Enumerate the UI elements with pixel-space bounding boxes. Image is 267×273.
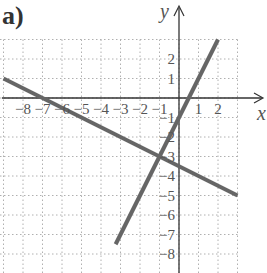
tick-labels: −8−7−6−5−4−3−2−11221−1−2−3−4−5−6−7−8 bbox=[15, 51, 222, 262]
y-tick-label: −3 bbox=[159, 149, 175, 165]
panel-label: a) bbox=[2, 1, 24, 30]
x-tick-label: −2 bbox=[132, 101, 148, 117]
x-tick-label: −6 bbox=[54, 101, 70, 117]
x-tick-label: −8 bbox=[15, 101, 31, 117]
x-tick-label: 1 bbox=[195, 101, 203, 117]
axes bbox=[2, 6, 263, 273]
y-tick-label: 2 bbox=[168, 51, 176, 67]
y-tick-label: −1 bbox=[159, 110, 175, 126]
x-tick-label: −5 bbox=[74, 101, 90, 117]
x-axis-label: x bbox=[256, 102, 266, 124]
x-tick-label: −4 bbox=[93, 101, 109, 117]
y-tick-label: −5 bbox=[159, 188, 175, 204]
y-tick-label: −7 bbox=[159, 227, 175, 243]
x-tick-label: 2 bbox=[214, 101, 222, 117]
x-tick-label: −7 bbox=[35, 101, 51, 117]
y-tick-label: 1 bbox=[168, 71, 176, 87]
y-axis-label: y bbox=[158, 0, 169, 23]
line-chart: −8−7−6−5−4−3−2−11221−1−2−3−4−5−6−7−8 a) … bbox=[0, 0, 267, 273]
y-tick-label: −2 bbox=[159, 129, 175, 145]
x-tick-label: −3 bbox=[113, 101, 129, 117]
y-tick-label: −4 bbox=[159, 168, 175, 184]
y-tick-label: −6 bbox=[159, 207, 175, 223]
series-lines bbox=[4, 40, 238, 245]
y-tick-label: −8 bbox=[159, 246, 175, 262]
